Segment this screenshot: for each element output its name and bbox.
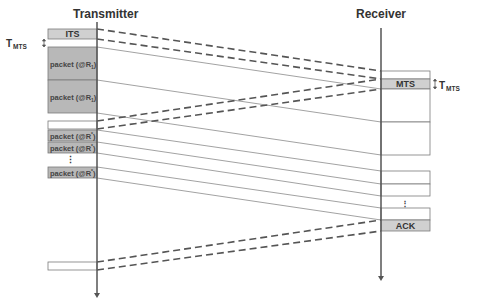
receiver-box-empty	[381, 171, 430, 184]
receiver-arrow-icon	[378, 276, 384, 281]
t-mts-right-main: T	[439, 80, 445, 91]
t-mts-left-annotation: T MTS	[6, 38, 46, 50]
transmitter-box-empty	[48, 121, 97, 129]
transmitter-box-packet-r: packet (@R*)	[48, 142, 97, 153]
transmitter-box-label: packet (@R*)	[50, 143, 96, 153]
receiver-box-rect	[381, 184, 430, 196]
transmitter-box-packet-r: packet (@R*)	[48, 167, 97, 178]
t-mts-left-sub: MTS	[13, 43, 27, 50]
double-arrow-icon	[434, 79, 437, 89]
receiver-box-rect	[381, 171, 430, 184]
data-signal-line	[97, 153, 381, 196]
receiver-box-ack: ACK	[381, 220, 430, 231]
data-signal-line	[97, 167, 381, 208]
t-mts-right-sub: MTS	[446, 85, 460, 92]
transmitter-box-packet-r: packet (@R1)	[48, 80, 97, 113]
transmitter-box-packet-r: packet (@R*)	[48, 130, 97, 141]
transmitter-ellipsis: ⋮	[66, 155, 75, 165]
transmitter-box-label: packet (@R1)	[50, 93, 97, 103]
control-signal-dashed-line	[97, 89, 381, 129]
receiver-box-empty	[381, 184, 430, 196]
receiver-header: Receiver	[356, 7, 406, 21]
control-signal-dashed-line	[97, 231, 381, 270]
data-signal-line	[97, 80, 381, 122]
control-signal-dashed-line	[97, 29, 381, 71]
receiver-box-empty	[381, 122, 430, 155]
receiver-box-label: ACK	[396, 221, 416, 231]
transmitter-box-label: ITS	[65, 29, 79, 39]
transmitter-box-label: packet (@R*)	[50, 168, 96, 178]
receiver-box-mts: MTS	[381, 79, 430, 89]
transmitter-box-packet-r: packet (@R1)	[48, 47, 97, 80]
transmitter-box-label: packet (@R1)	[50, 60, 97, 70]
control-signal-dashed-line	[97, 220, 381, 262]
receiver-box-rect	[381, 208, 430, 220]
control-signal-dashed-line	[97, 79, 381, 121]
receiver-ellipsis: ⋮	[401, 199, 409, 208]
double-arrow-icon	[43, 39, 46, 47]
receiver-box-rect	[381, 71, 430, 79]
receiver-box-empty	[381, 89, 430, 122]
receiver-box-empty	[381, 208, 430, 220]
transmitter-box-label: packet (@R*)	[50, 131, 96, 141]
t-mts-right-annotation: T MTS	[434, 79, 461, 92]
receiver-box-rect	[381, 122, 430, 155]
data-signal-line	[97, 130, 381, 171]
transmitter-arrow-icon	[94, 293, 100, 298]
transmitter-boxes: ITSpacket (@R1)packet (@R1)packet (@R*)p…	[48, 29, 97, 270]
transmitter-box-its: ITS	[48, 29, 97, 39]
t-mts-left-main: T	[6, 38, 12, 49]
transmitter-box-rect	[48, 121, 97, 129]
transmitter-header: Transmitter	[73, 7, 139, 21]
signal-lines	[97, 29, 381, 270]
receiver-box-rect	[381, 89, 430, 122]
data-signal-line	[97, 178, 381, 220]
data-signal-line	[97, 47, 381, 89]
transmitter-box-rect	[48, 262, 97, 270]
receiver-box-empty	[381, 71, 430, 79]
transmitter-receiver-timing-diagram: Transmitter Receiver ITSpacket (@R1)pack…	[0, 0, 479, 301]
receiver-box-label: MTS	[396, 79, 415, 89]
transmitter-box-empty	[48, 262, 97, 270]
control-signal-dashed-line	[97, 39, 381, 79]
